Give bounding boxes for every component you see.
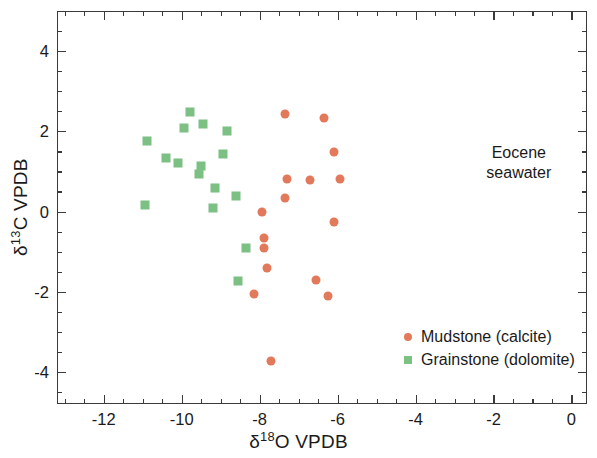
legend-label-mudstone: Mudstone (calcite) [421,328,552,346]
y-tick [57,91,62,92]
x-tick-top [435,11,436,16]
chart-legend: Mudstone (calcite) Grainstone (dolomite) [395,325,575,371]
x-tick-top [357,11,358,16]
y-tick [57,372,66,373]
x-tick [104,395,105,404]
data-point-square [210,184,219,193]
y-tick-label: 0 [40,202,49,221]
data-point-circle [306,176,315,185]
y-tick-right [582,352,587,353]
y-tick [57,31,62,32]
data-point-circle [263,264,272,273]
x-tick [221,399,222,404]
data-point-circle [329,148,338,157]
x-tick [357,399,358,404]
x-tick-label: -4 [408,410,423,429]
y-tick-label: -4 [34,362,49,381]
x-tick-top [240,11,241,16]
x-tick [201,399,202,404]
y-tick-right [582,312,587,313]
x-tick [84,399,85,404]
x-tick [279,399,280,404]
x-tick-label: -8 [252,410,267,429]
x-tick-top [123,11,124,16]
data-point-circle [280,110,289,119]
y-tick-right [582,272,587,273]
data-point-square [222,126,231,135]
y-tick-right [582,11,587,12]
x-tick [182,395,183,404]
x-tick-top [162,11,163,16]
annotation-eocene-seawater: Eocene seawater [459,143,579,182]
data-point-square [185,108,194,117]
data-point-square [234,277,243,286]
x-tick-top [221,11,222,16]
x-tick-top [396,11,397,16]
y-tick-label: 4 [40,42,49,61]
y-tick-right [578,212,587,213]
y-axis-title-delta: δ [10,245,31,256]
y-tick-right [582,91,587,92]
x-tick [338,395,339,404]
y-tick [57,151,62,152]
x-tick-top [493,11,494,20]
y-tick-right [582,31,587,32]
legend-swatch-grainstone-icon [395,356,421,364]
scatter-chart-figure: -12-10-8-6-4-20-4-2024 Eocene seawater δ… [0,0,597,458]
x-tick [318,399,319,404]
x-axis-title-superscript: 18 [260,429,275,444]
data-point-circle [282,174,291,183]
y-tick-right [582,171,587,172]
x-tick-top [143,11,144,16]
y-axis-title: δ13C VPDB [8,117,32,297]
y-tick-right [578,51,587,52]
y-tick-right [578,131,587,132]
y-tick-right [582,252,587,253]
data-point-square [199,120,208,129]
y-tick-right [582,232,587,233]
y-tick [57,312,62,313]
data-point-circle [312,275,321,284]
y-tick-label: 2 [40,122,49,141]
x-tick [65,399,66,404]
y-tick [57,272,62,273]
x-tick-top [104,11,105,20]
legend-label-grainstone: Grainstone (dolomite) [421,351,575,369]
x-tick [240,399,241,404]
y-tick-right [582,392,587,393]
x-tick [377,399,378,404]
data-point-square [232,192,241,201]
y-tick [57,252,62,253]
data-point-square [195,169,204,178]
data-point-circle [319,114,328,123]
data-point-square [140,201,149,210]
y-axis-title-superscript: 13 [8,230,23,245]
legend-item-grainstone: Grainstone (dolomite) [395,348,575,371]
data-point-circle [257,208,266,217]
y-tick [57,212,66,213]
x-tick [532,399,533,404]
legend-item-mudstone: Mudstone (calcite) [395,325,575,348]
x-tick [299,399,300,404]
x-tick-label: -12 [92,410,116,429]
x-tick [162,399,163,404]
x-tick-top [552,11,553,16]
x-tick-top [532,11,533,16]
x-tick-top [65,11,66,16]
data-point-circle [323,291,332,300]
x-tick-top [338,11,339,20]
y-tick-right [578,372,587,373]
y-tick [57,71,62,72]
y-tick [57,232,62,233]
y-tick [57,131,66,132]
y-tick [57,332,62,333]
x-tick-top [299,11,300,16]
x-tick [455,399,456,404]
x-tick [123,399,124,404]
x-tick-top [318,11,319,16]
x-tick [260,395,261,404]
x-tick-top [279,11,280,16]
x-tick [513,399,514,404]
y-tick [57,11,62,12]
y-tick-right [582,71,587,72]
